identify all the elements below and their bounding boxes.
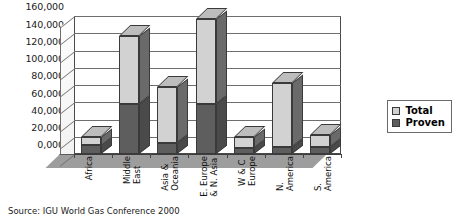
bar-segment-total bbox=[196, 19, 216, 104]
x-axis-tick bbox=[341, 154, 342, 158]
bar-segment-total bbox=[119, 36, 139, 104]
bar-segment-total bbox=[310, 135, 330, 147]
legend-item-total[interactable]: Total bbox=[392, 105, 445, 116]
x-tick-label: W & C Europe bbox=[238, 156, 257, 186]
x-axis-tick bbox=[227, 154, 228, 158]
x-axis-tick bbox=[112, 154, 113, 158]
legend-swatch-total bbox=[392, 107, 400, 115]
legend-label-proven: Proven bbox=[405, 117, 445, 128]
bar-column[interactable] bbox=[196, 19, 216, 154]
plot-floor-edge bbox=[74, 154, 341, 155]
y-tick-label: 160,000 bbox=[25, 2, 64, 12]
bar-segment-total bbox=[81, 137, 101, 146]
bar-column[interactable] bbox=[119, 36, 139, 154]
x-tick-label: Middle East bbox=[123, 156, 142, 184]
bar-side-total bbox=[216, 10, 227, 104]
bar-side-total bbox=[292, 75, 303, 147]
legend-swatch-proven bbox=[392, 119, 400, 127]
bar-segment-proven bbox=[157, 143, 177, 154]
bar-segment-total bbox=[234, 137, 254, 148]
bar-segment-proven bbox=[310, 147, 330, 154]
bar-side-total bbox=[139, 27, 150, 104]
bar-side-proven bbox=[139, 95, 150, 154]
bar-side-total bbox=[177, 78, 188, 143]
y-tick-label: 100,000 bbox=[25, 54, 64, 64]
x-axis-tick bbox=[150, 154, 151, 158]
x-axis-tick bbox=[265, 154, 266, 158]
gas-reserves-chart: 0,00020,00040,00060,00080,000100,000120,… bbox=[0, 0, 464, 221]
legend-item-proven[interactable]: Proven bbox=[392, 117, 445, 128]
y-tick-label: 120,000 bbox=[25, 37, 64, 47]
bar-column[interactable] bbox=[272, 83, 292, 154]
x-tick-label: Asia & Oceania bbox=[161, 156, 180, 191]
bar-column[interactable] bbox=[157, 87, 177, 154]
x-axis-tick bbox=[303, 154, 304, 158]
bar-side-proven bbox=[216, 95, 227, 154]
legend-label-total: Total bbox=[405, 105, 432, 116]
x-axis-tick bbox=[188, 154, 189, 158]
bar-segment-proven bbox=[234, 148, 254, 154]
x-tick-label: E. Europe & N. Asia bbox=[200, 156, 219, 197]
bar-segment-total bbox=[157, 87, 177, 143]
bar-segment-proven bbox=[81, 145, 101, 154]
bar-series-container bbox=[74, 16, 341, 154]
x-tick-label: Africa bbox=[85, 156, 95, 180]
bar-segment-proven bbox=[272, 147, 292, 154]
bar-column[interactable] bbox=[81, 137, 101, 154]
y-tick-label: 140,000 bbox=[25, 20, 64, 30]
bar-segment-total bbox=[272, 83, 292, 147]
chart-legend: Total Proven bbox=[387, 100, 452, 133]
x-tick-label: S. America bbox=[314, 156, 333, 191]
bar-segment-proven bbox=[196, 104, 216, 154]
x-tick-label: N. America bbox=[276, 156, 295, 191]
x-axis-tick bbox=[74, 154, 75, 158]
bar-segment-proven bbox=[119, 104, 139, 154]
bar-column[interactable] bbox=[234, 137, 254, 154]
bar-column[interactable] bbox=[310, 135, 330, 154]
source-caption: Source: IGU World Gas Conference 2000 bbox=[8, 206, 180, 216]
